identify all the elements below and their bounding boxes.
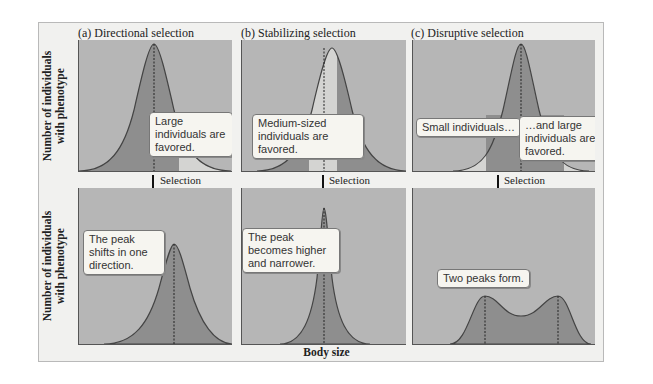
selection-label-a: Selection [160, 174, 201, 186]
selection-label-c: Selection [504, 174, 545, 186]
callout-small-favored: Small individuals… [416, 118, 521, 137]
x-axis-label: Body size [0, 346, 653, 358]
bimodal-curve-c-bottom [413, 188, 595, 345]
selection-label-b: Selection [329, 174, 370, 186]
panel-c-top-plot: Small individuals… …and large individual… [412, 40, 595, 172]
callout-large-favored: Large individuals are favored. [149, 112, 232, 157]
panel-a-title: (a) Directional selection [78, 26, 194, 41]
callout-medium-favored: Medium-sized individuals are favored. [252, 114, 364, 159]
panel-c-title: (c) Disruptive selection [411, 26, 524, 41]
panel-b-top-plot: Medium-sized individuals are favored. [241, 40, 406, 172]
panel-b-bottom-plot: The peak becomes higher and narrower. [241, 188, 406, 345]
callout-two-peaks: Two peaks form. [437, 269, 530, 288]
panel-c-bottom-plot: Two peaks form. [412, 188, 595, 345]
panel-a-bottom-plot: The peak shifts in one direction. [78, 188, 232, 345]
panel-a-top-plot: Large individuals are favored. [78, 40, 232, 172]
y-axis-label-top: Number of individuals with phenotype [41, 41, 75, 171]
callout-peak-narrower: The peak becomes higher and narrower. [242, 228, 340, 273]
panel-b-title: (b) Stabilizing selection [241, 26, 356, 41]
callout-large-favored: …and large individuals are favored. [519, 116, 595, 161]
callout-peak-shifts: The peak shifts in one direction. [83, 230, 165, 275]
y-axis-label-bottom: Number of individuals with phenotype [41, 201, 75, 331]
